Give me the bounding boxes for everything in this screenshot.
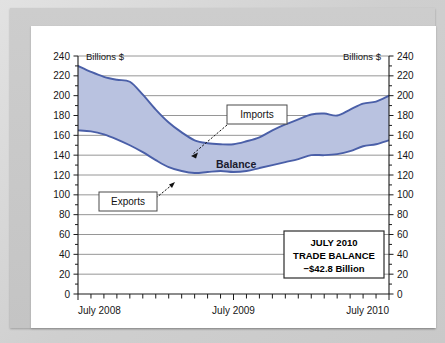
y-axis-tick-label-right: 220 [397, 70, 414, 81]
y-axis-tick-label-left: 0 [64, 289, 70, 300]
y-axis-tick-label-left: 60 [59, 229, 71, 240]
y-axis-tick-label-left: 160 [53, 130, 70, 141]
y-axis-tick-label-left: 100 [53, 189, 70, 200]
y-axis-tick-label-left: 220 [53, 70, 70, 81]
x-axis-tick-label: July 2009 [212, 305, 255, 316]
chart-plot-area: 240220200180160140120100806040200 240220… [31, 26, 436, 328]
y-axis-labels-right: 240220200180160140120100806040200 [397, 51, 414, 300]
y-axis-tick-label-left: 200 [53, 90, 70, 101]
summary-callout: JULY 2010 TRADE BALANCE −$42.8 Billion [284, 231, 384, 278]
y-axis-tick-label-right: 80 [397, 209, 409, 220]
y-axis-tick-label-right: 100 [397, 189, 414, 200]
summary-line-1: JULY 2010 [310, 237, 357, 248]
y-axis-labels-left: 240220200180160140120100806040200 [53, 51, 70, 300]
exports-callout-label: Exports [111, 196, 145, 207]
y-axis-tick-label-left: 180 [53, 110, 70, 121]
y-axis-tick-label-left: 120 [53, 170, 70, 181]
exports-arrowhead [169, 182, 175, 188]
y-axis-unit-left: Billions $ [86, 51, 125, 62]
summary-line-3: −$42.8 Billion [304, 263, 365, 274]
balance-band-label: Balance [216, 158, 256, 170]
y-axis-tick-label-left: 240 [53, 51, 70, 62]
imports-callout-label: Imports [240, 109, 273, 120]
x-axis-tick-label: July 2008 [78, 305, 121, 316]
y-axis-tick-label-right: 140 [397, 150, 414, 161]
chart-frame: 240220200180160140120100806040200 240220… [10, 8, 435, 328]
y-axis-tick-label-right: 120 [397, 170, 414, 181]
y-axis-tick-label-right: 160 [397, 130, 414, 141]
y-axis-tick-label-right: 60 [397, 229, 409, 240]
y-axis-unit-right: Billions $ [343, 51, 382, 62]
y-axis-tick-label-right: 40 [397, 249, 409, 260]
x-axis-labels: July 2008July 2009July 2010 [78, 305, 389, 316]
y-axis-tick-label-right: 240 [397, 51, 414, 62]
x-axis-tick-label: July 2010 [346, 305, 389, 316]
y-axis-tick-label-left: 40 [59, 249, 71, 260]
y-axis-tick-label-right: 180 [397, 110, 414, 121]
y-axis-tick-label-right: 200 [397, 90, 414, 101]
trade-balance-chart: 240220200180160140120100806040200 240220… [31, 26, 436, 328]
y-axis-tick-label-left: 140 [53, 150, 70, 161]
screenshot-root: 240220200180160140120100806040200 240220… [0, 0, 445, 343]
y-axis-tick-label-right: 0 [397, 289, 403, 300]
summary-line-2: TRADE BALANCE [293, 250, 375, 261]
y-axis-tick-label-right: 20 [397, 269, 409, 280]
chart-panel: 240220200180160140120100806040200 240220… [31, 26, 436, 328]
y-axis-tick-label-left: 80 [59, 209, 71, 220]
y-axis-tick-label-left: 20 [59, 269, 71, 280]
exports-annotation: Exports [99, 182, 175, 211]
